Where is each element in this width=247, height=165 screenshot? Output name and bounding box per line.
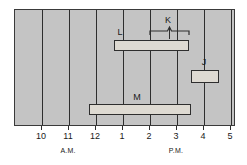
period-label-am: A.M. [48,146,88,155]
tick-label-10: 10 [32,131,50,142]
tick-mark-3 [176,126,177,130]
tick-label-3: 3 [167,131,185,142]
tick-mark-4 [203,126,204,130]
schedule-chart-screenshot: 10111212345A.M.P.M. LJMK [0,0,247,165]
tick-mark-10 [41,126,42,130]
tick-mark-5 [230,126,231,130]
tick-mark-12 [95,126,96,130]
tick-label-1: 1 [113,131,131,142]
tick-mark-1 [122,126,123,130]
tick-label-4: 4 [194,131,212,142]
tick-mark-11 [68,126,69,130]
bar-label-l: L [113,27,127,37]
period-label-pm: P.M. [156,146,196,155]
bar-label-j: J [197,57,211,67]
bar-label-m: M [130,92,144,102]
tick-label-12: 12 [86,131,104,142]
annotation-label-k: K [161,15,175,25]
tick-label-5: 5 [221,131,239,142]
tick-label-11: 11 [59,131,77,142]
tick-mark-2 [149,126,150,130]
tick-label-2: 2 [140,131,158,142]
